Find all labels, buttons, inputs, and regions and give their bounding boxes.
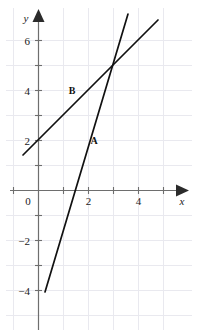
y-tick-label--4: −4 [18, 285, 30, 297]
y-axis-arrowhead [33, 9, 45, 22]
y-tick-label-2: 2 [25, 135, 31, 147]
vertical-gridlines [14, 8, 164, 330]
coordinate-graph: y x 0 2 4 6 4 2 −2 −4 B A [0, 0, 197, 336]
series-label-b: B [69, 85, 76, 96]
y-tick-label-6: 6 [25, 35, 31, 47]
x-axis-label: x [179, 195, 185, 207]
y-axis [33, 9, 45, 330]
horizontal-gridlines [6, 41, 192, 316]
y-tick-label-4: 4 [25, 85, 31, 97]
plot-lines [23, 14, 158, 292]
x-axis [10, 185, 189, 197]
series-label-a: A [90, 135, 98, 146]
x-tick-label-0: 0 [25, 195, 31, 207]
x-tick-label-2: 2 [86, 195, 92, 207]
y-axis-label: y [23, 12, 29, 24]
y-tick-label--2: −2 [18, 235, 30, 247]
x-tick-label-4: 4 [136, 195, 142, 207]
graph-canvas: y x 0 2 4 6 4 2 −2 −4 B A [0, 0, 197, 336]
line-a [45, 14, 128, 292]
